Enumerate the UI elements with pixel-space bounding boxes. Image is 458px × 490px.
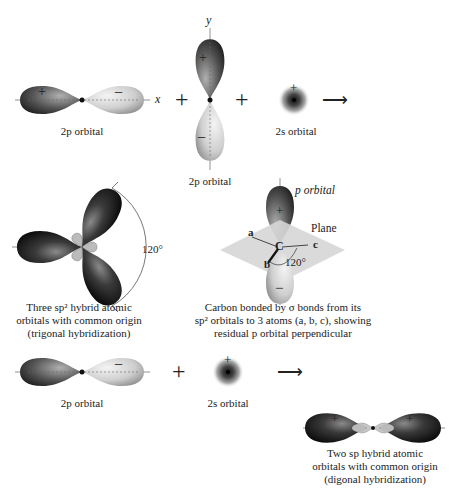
plus-operator-1: +	[175, 86, 189, 113]
s3-plus-sign: +	[224, 352, 231, 368]
px-orbital	[15, 86, 150, 114]
p-orbital-row3	[15, 358, 150, 386]
py-plus-sign: +	[199, 50, 207, 66]
carbon-p-plus-sign: +	[276, 203, 283, 219]
s-orbital-label: 2s orbital	[266, 125, 326, 138]
px-plus-sign: +	[38, 84, 46, 100]
sp-digonal-orbitals	[303, 413, 445, 442]
p3-orbital-label: 2p orbital	[52, 397, 112, 410]
px-minus-sign: −	[114, 84, 123, 102]
carbon-caption: Carbon bonded by σ bonds from its sp² or…	[178, 301, 388, 340]
p3-minus-sign: −	[114, 356, 123, 374]
plane-label: Plane	[311, 222, 337, 234]
y-axis-label: y	[206, 13, 211, 28]
plus-operator-3: +	[172, 358, 186, 385]
sp-caption: Two sp hybrid atomic orbitals with commo…	[300, 447, 450, 486]
plus-operator-2: +	[235, 86, 249, 113]
s-plus-sign: +	[290, 80, 297, 96]
s3-orbital-label: 2s orbital	[198, 397, 258, 410]
py-minus-sign: −	[197, 129, 206, 147]
atom-b-label: b	[264, 258, 270, 270]
sp2-angle-label: 120°	[142, 243, 163, 255]
x-axis-label: x	[155, 92, 160, 107]
sp-right-plus-sign: +	[406, 411, 413, 427]
p-orbital-label: p orbital	[295, 184, 335, 196]
atom-c-label: c	[313, 238, 318, 250]
carbon-angle-label: 120°	[285, 256, 306, 268]
atom-a-label: a	[248, 226, 254, 238]
hybridization-diagram	[0, 0, 458, 490]
carbon-p-minus-sign: −	[275, 280, 283, 297]
reaction-arrow-2: ⟶	[277, 361, 303, 383]
sp2-trigonal-orbitals	[12, 182, 146, 312]
px-orbital-label: 2p orbital	[52, 125, 112, 138]
sp-left-plus-sign: +	[331, 411, 338, 427]
py-orbital-label: 2p orbital	[180, 175, 240, 188]
carbon-center-label: C	[275, 239, 284, 254]
reaction-arrow-1: ⟶	[322, 89, 348, 111]
sp2-caption: Three sp² hybrid atomic orbitals with co…	[0, 301, 158, 340]
